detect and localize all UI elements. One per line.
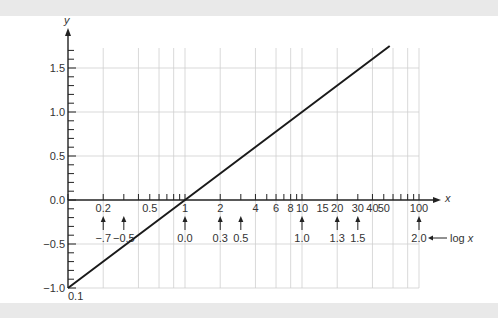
up-arrow-icon — [101, 216, 106, 222]
up-arrow-icon — [238, 216, 243, 222]
y-tick-label: 1.0 — [50, 106, 65, 118]
log-value-label: 1.3 — [330, 232, 345, 244]
log-value-label: 0.3 — [213, 232, 228, 244]
y-tick-label: 0.0 — [50, 194, 65, 206]
x-tick-label: 30 — [352, 202, 364, 214]
log-value-label: −.7 — [95, 232, 111, 244]
log-value-label: −0.5 — [113, 232, 135, 244]
x-origin-label: 0.1 — [68, 290, 83, 302]
y-tick-label: 1.5 — [50, 62, 65, 74]
up-arrow-icon — [121, 216, 126, 222]
log-value-label: 0.5 — [233, 232, 248, 244]
log-value-label: 1.0 — [294, 232, 309, 244]
x-tick-label: 2 — [217, 202, 223, 214]
y-tick-label: 0.5 — [50, 150, 65, 162]
up-arrow-icon — [355, 216, 360, 222]
log-chart: y1.51.00.50.0−0.5−1.0x0.10.20.5124681015… — [0, 0, 498, 318]
up-arrow-icon — [417, 216, 422, 222]
up-arrow-icon — [183, 216, 188, 222]
y-tick-label: −0.5 — [43, 238, 65, 250]
up-arrow-icon — [335, 216, 340, 222]
left-arrow-icon — [428, 236, 433, 241]
y-axis-arrow-icon — [65, 28, 71, 36]
log-value-label: 1.5 — [350, 232, 365, 244]
x-tick-label: 0.2 — [96, 202, 111, 214]
x-tick-label: 6 — [273, 202, 279, 214]
x-tick-label: 10 — [296, 202, 308, 214]
up-arrow-icon — [300, 216, 305, 222]
x-tick-label: 1 — [182, 202, 188, 214]
log-value-label: 0.0 — [177, 232, 192, 244]
up-arrow-icon — [218, 216, 223, 222]
x-tick-label: 20 — [331, 202, 343, 214]
x-tick-label: 4 — [252, 202, 258, 214]
y-tick-label: −1.0 — [43, 282, 65, 294]
x-tick-label: 8 — [288, 202, 294, 214]
x-tick-label: 50 — [378, 202, 390, 214]
log-x-label: log x — [450, 232, 474, 244]
x-tick-label: 100 — [410, 202, 428, 214]
series-line — [68, 46, 390, 288]
x-axis-label: x — [444, 192, 451, 204]
x-tick-label: 0.5 — [142, 202, 157, 214]
x-axis-arrow-icon — [433, 197, 441, 203]
y-axis-label: y — [63, 14, 71, 26]
x-tick-label: 15 — [316, 202, 328, 214]
log-value-label: 2.0 — [411, 232, 426, 244]
